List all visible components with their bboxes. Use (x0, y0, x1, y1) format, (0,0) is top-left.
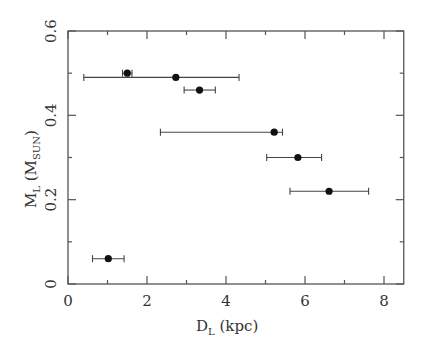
x-tick-label: 4 (221, 292, 231, 310)
marker-dot (294, 154, 301, 161)
y-tick-label: 0.4 (42, 103, 60, 127)
x-tick-labels: 02468 (63, 292, 389, 310)
marker-dot (124, 70, 131, 77)
y-tick-label: 0.6 (42, 19, 60, 43)
y-tick-labels: 00.20.40.6 (42, 19, 60, 289)
y-tick-label: 0.2 (42, 188, 60, 212)
x-axis-label: DL (kpc) (196, 317, 258, 337)
y-tick-label: 0 (42, 279, 60, 289)
marker-dot (325, 188, 332, 195)
data-point (160, 129, 282, 136)
marker-dot (105, 255, 112, 262)
data-points (84, 70, 369, 263)
data-point (84, 74, 239, 81)
plot-frame (68, 31, 404, 284)
data-point (290, 188, 369, 195)
x-tick-label: 6 (300, 292, 310, 310)
marker-dot (196, 86, 203, 93)
data-point (92, 255, 124, 262)
axis-ticks (68, 31, 404, 284)
y-axis-label: ML (MSUN) (22, 130, 42, 208)
marker-dot (271, 129, 278, 136)
x-tick-label: 0 (63, 292, 73, 310)
data-point (184, 86, 215, 93)
marker-dot (172, 74, 179, 81)
scatter-chart: 02468 00.20.40.6 DL (kpc) ML (MSUN) (0, 0, 425, 357)
data-point (123, 70, 132, 77)
data-point (267, 154, 322, 161)
x-tick-label: 2 (142, 292, 152, 310)
x-tick-label: 8 (379, 292, 389, 310)
